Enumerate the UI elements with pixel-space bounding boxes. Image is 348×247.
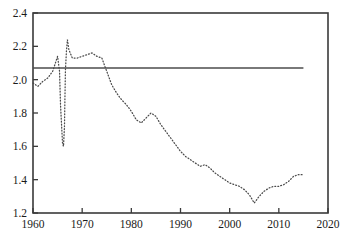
x-tick-label: 1980	[120, 218, 143, 230]
y-tick-label: 1.4	[13, 174, 28, 186]
y-tick-label: 2.2	[13, 40, 28, 52]
line-chart: 1.21.41.61.82.02.22.4 196019701980199020…	[0, 0, 348, 247]
y-tick-label: 2.0	[13, 74, 28, 86]
y-tick-label: 1.8	[13, 107, 28, 119]
x-tick-label: 2010	[267, 218, 290, 230]
x-axis-tick-labels: 1960197019801990200020102020	[22, 218, 340, 230]
x-tick-label: 2020	[317, 218, 340, 230]
x-tick-label: 1990	[169, 218, 192, 230]
chart-container: 1.21.41.61.82.02.22.4 196019701980199020…	[0, 0, 348, 247]
x-tick-label: 2000	[218, 218, 241, 230]
x-tick-label: 1970	[71, 218, 94, 230]
x-tick-label: 1960	[22, 218, 45, 230]
plot-frame	[33, 13, 328, 213]
series-line-observed	[33, 40, 303, 203]
data-series-group	[33, 40, 303, 203]
y-tick-label: 1.6	[13, 140, 28, 152]
y-tick-label: 2.4	[13, 7, 28, 19]
y-axis-tick-labels: 1.21.41.61.82.02.22.4	[13, 7, 28, 219]
